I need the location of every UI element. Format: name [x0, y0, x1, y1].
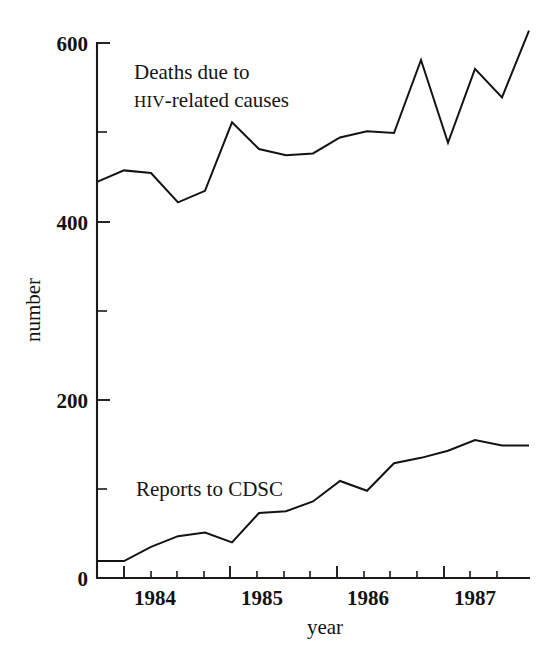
- y-tick-labels: 600 400 200 0: [57, 32, 89, 591]
- y-tick-label-600: 600: [57, 32, 89, 56]
- deaths-label-hiv: HIV: [134, 92, 165, 111]
- y-axis-title: number: [21, 278, 45, 342]
- x-axis-title: year: [307, 615, 343, 639]
- chart-figure: 600 400 200 0 1984 1985 1986 1987 year n…: [0, 0, 557, 646]
- x-tick-label-1984: 1984: [134, 586, 177, 610]
- x-tick-label-1986: 1986: [347, 586, 389, 610]
- y-minor-ticks: [97, 132, 107, 489]
- line-chart-svg: 600 400 200 0 1984 1985 1986 1987 year n…: [0, 0, 557, 646]
- y-tick-label-200: 200: [57, 389, 89, 413]
- annotation-deaths-label: Deaths due to HIV-related causes: [134, 60, 289, 112]
- annotation-reports-label: Reports to CDSC: [136, 477, 283, 501]
- x-tick-label-1987: 1987: [454, 586, 496, 610]
- y-tick-label-0: 0: [78, 567, 89, 591]
- y-major-ticks: [97, 43, 110, 400]
- x-tick-label-1985: 1985: [241, 586, 283, 610]
- deaths-label-suffix: -related causes: [165, 88, 289, 112]
- series-line-deaths-hiv: [97, 31, 529, 203]
- deaths-label-line1: Deaths due to: [134, 60, 249, 84]
- deaths-label-line2: HIV-related causes: [134, 88, 289, 112]
- y-tick-label-400: 400: [57, 211, 89, 235]
- x-tick-labels: 1984 1985 1986 1987: [134, 586, 496, 610]
